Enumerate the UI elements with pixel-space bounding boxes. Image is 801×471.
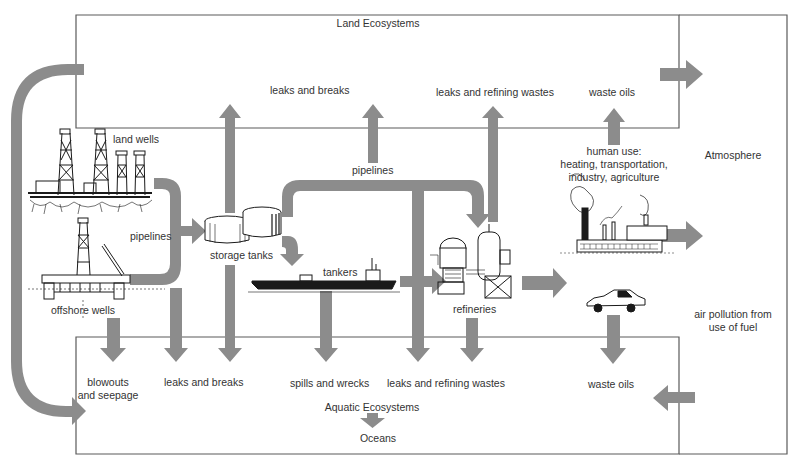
land-wells-label: land wells xyxy=(113,133,159,146)
air-pollution-label-line1: air pollution from xyxy=(694,308,772,321)
aquatic-leaks-refining-label: leaks and refining wastes xyxy=(387,377,505,390)
spills-wrecks-label: spills and wrecks xyxy=(290,377,369,390)
atmosphere-label: Atmosphere xyxy=(705,149,762,162)
car-illustration xyxy=(587,290,645,312)
tankers-label: tankers xyxy=(323,266,357,279)
arrow-atmosphere-to-aquatic-icon xyxy=(653,385,695,411)
arrow-land-to-atmosphere-icon xyxy=(660,60,703,89)
oceans-label: Oceans xyxy=(360,432,396,445)
storage-tanks-label: storage tanks xyxy=(210,249,273,262)
arrow-down-waste-oils-icon xyxy=(600,315,626,364)
land-ecosystems-label: Land Ecosystems xyxy=(337,17,420,30)
land-leaks-breaks-label: leaks and breaks xyxy=(270,84,349,97)
blowouts-label-line1: blowouts xyxy=(87,376,128,389)
offshore-wells-label: offshore wells xyxy=(51,304,115,317)
aquatic-waste-oils-label: waste oils xyxy=(588,378,634,391)
human-use-label-line3: industry, agriculture xyxy=(569,171,660,184)
arrow-down-refinery-icon xyxy=(460,318,484,362)
blowouts-label-line2: and seepage xyxy=(78,389,139,402)
human-use-label-line2: heating, transportation, xyxy=(560,158,667,171)
arrow-down-tankers-icon xyxy=(314,291,338,362)
air-pollution-label-line2: use of fuel xyxy=(709,321,757,334)
pipelines-left-label: pipelines xyxy=(130,230,171,243)
loop-arrow-icon xyxy=(11,64,86,425)
pipelines-top-label: pipelines xyxy=(352,164,393,177)
arrow-up-human-waste-icon xyxy=(603,108,625,145)
aquatic-leaks-breaks-label: leaks and breaks xyxy=(164,376,243,389)
refineries-illustration xyxy=(430,224,511,298)
arrow-storage-to-tankers-icon xyxy=(280,236,304,266)
aquatic-ecosystems-label: Aquatic Ecosystems xyxy=(325,401,420,414)
arrow-up-refinery-leaks-icon xyxy=(482,106,504,222)
arrow-up-storage-leaks-icon xyxy=(219,104,241,213)
land-waste-oils-label: waste oils xyxy=(589,86,635,99)
arrow-down-storage-leaks-icon xyxy=(218,265,242,362)
arrow-down-pipeline-leaks-icon xyxy=(164,288,188,362)
arrow-refineries-to-human-use-icon xyxy=(522,268,567,298)
human-use-label-line1: human use: xyxy=(587,145,642,158)
storage-tanks-illustration xyxy=(205,207,281,243)
land-leaks-refining-label: leaks and refining wastes xyxy=(436,86,554,99)
arrow-up-pipeline-leaks-icon xyxy=(362,104,384,163)
oil-pollution-diagram: Land Ecosystems Atmosphere Aquatic Ecosy… xyxy=(0,0,801,471)
factory-illustration xyxy=(560,174,675,253)
refineries-label: refineries xyxy=(453,303,496,316)
arrow-down-offshore-icon xyxy=(100,318,126,362)
arrow-down-oceans-icon xyxy=(360,413,385,428)
